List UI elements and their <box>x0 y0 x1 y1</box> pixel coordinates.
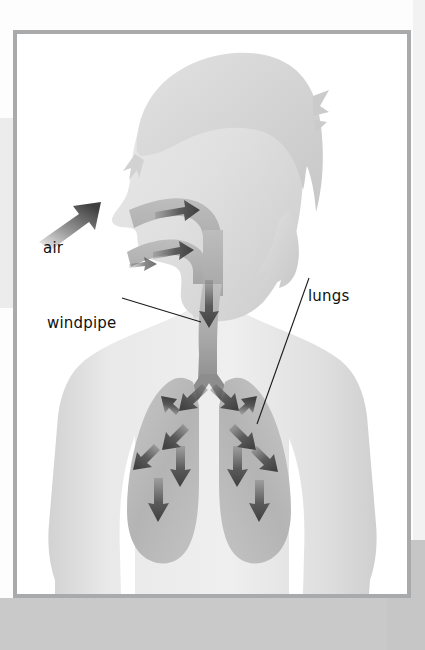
illustration-canvas: air windpipe lungs <box>17 34 407 594</box>
label-windpipe: windpipe <box>47 316 117 331</box>
page-right-block <box>413 0 425 598</box>
hair-strand-icon <box>313 90 329 116</box>
label-air: air <box>43 241 63 256</box>
page-root: air windpipe lungs <box>0 0 425 650</box>
illustration-frame: air windpipe lungs <box>13 30 411 598</box>
page-bottom-band <box>0 598 425 650</box>
page-left-block <box>0 118 14 308</box>
label-lungs: lungs <box>308 289 350 304</box>
